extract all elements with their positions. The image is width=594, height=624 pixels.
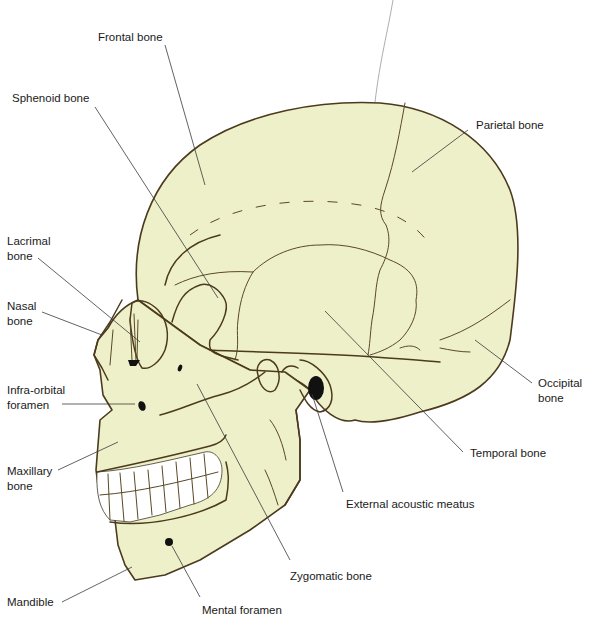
label-mandible: Mandible	[7, 595, 54, 610]
stray-line	[375, 0, 393, 102]
label-occipital-bone: Occipital bone	[538, 376, 582, 406]
external-acoustic-meatus-hole	[308, 376, 324, 400]
leader-lacrimal	[38, 258, 140, 342]
label-nasal-bone: Nasal bone	[7, 299, 36, 329]
label-zygomatic-bone: Zygomatic bone	[290, 569, 372, 584]
label-sphenoid-bone: Sphenoid bone	[12, 91, 89, 106]
label-mental-foramen: Mental foramen	[202, 603, 282, 618]
label-lacrimal-bone: Lacrimal bone	[7, 234, 50, 264]
label-infraorbital-foramen: Infra-orbital foramen	[7, 383, 65, 413]
label-temporal-bone: Temporal bone	[470, 446, 546, 461]
mental-foramen-hole	[165, 538, 173, 546]
leader-mandible	[62, 567, 132, 602]
label-external-acoustic-meatus: External acoustic meatus	[346, 497, 474, 512]
label-maxillary-bone: Maxillary bone	[7, 464, 52, 494]
label-frontal-bone: Frontal bone	[98, 30, 163, 45]
label-parietal-bone: Parietal bone	[476, 118, 544, 133]
leader-nasal	[42, 312, 102, 335]
